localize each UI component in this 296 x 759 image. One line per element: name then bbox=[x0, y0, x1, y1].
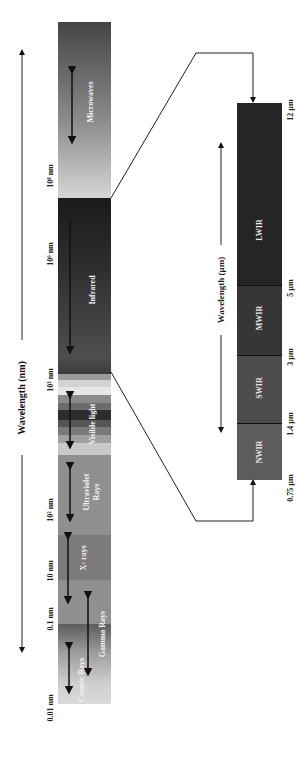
label-rays: Rays bbox=[92, 484, 101, 501]
connector-lines bbox=[0, 0, 296, 759]
label-visible-light: Visible light bbox=[88, 404, 97, 445]
ir-tick-12-um: 12 µm bbox=[286, 99, 295, 120]
label-nwir: NWIR bbox=[255, 441, 264, 464]
tick-1e2-nm: 10² nm bbox=[46, 498, 55, 522]
label-ultraviolet: Ultraviolet bbox=[82, 474, 91, 511]
tick-0-01-nm: 0.01 nm bbox=[46, 694, 55, 721]
label-x-rays: X- rays bbox=[79, 545, 88, 570]
label-infrared: Infrared bbox=[88, 275, 97, 304]
main-axis-title: Wavelength (nm) bbox=[16, 361, 27, 435]
ir-tick-0-75-um: 0.75 µm bbox=[286, 474, 295, 501]
ir-tick-3-um: 3 µm bbox=[286, 348, 295, 365]
label-mwir: MWIR bbox=[255, 306, 264, 330]
tick-0-1-nm: 0.1 nm bbox=[46, 607, 55, 630]
ir-tick-5-um: 5 µm bbox=[286, 279, 295, 296]
tick-1e8-nm: 10⁸ nm bbox=[46, 164, 55, 188]
label-lwir: LWIR bbox=[255, 219, 264, 241]
tick-10-nm: 10 nm bbox=[46, 560, 55, 581]
ir-axis-title: Wavelength (µm) bbox=[216, 257, 226, 323]
tick-1e3-nm: 10³ nm bbox=[46, 368, 55, 392]
label-gamma-rays: Gamma Rays bbox=[98, 611, 107, 657]
label-cosmic-rays: Cosmic Rays bbox=[77, 658, 86, 702]
ir-tick-1-4-um: 1.4 µm bbox=[286, 412, 295, 435]
label-swir: SWIR bbox=[255, 377, 264, 398]
label-microwaves: Microwaves bbox=[86, 81, 95, 122]
tick-1e6-nm: 10⁶ nm bbox=[46, 242, 55, 266]
